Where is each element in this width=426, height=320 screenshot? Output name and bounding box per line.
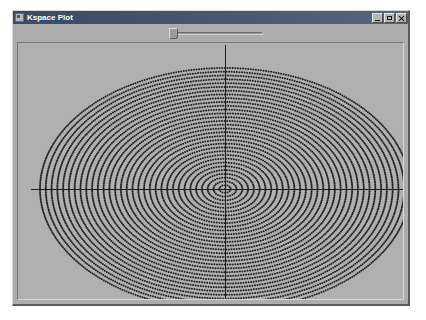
window-title: Kspace Plot <box>27 11 371 24</box>
minimize-icon <box>375 20 380 21</box>
maximize-button[interactable] <box>384 13 395 23</box>
window-title-bar[interactable]: Kspace Plot <box>13 11 408 24</box>
slider-handle[interactable] <box>169 28 178 39</box>
minimize-button[interactable] <box>372 13 383 23</box>
parameter-slider[interactable] <box>167 27 263 39</box>
close-button[interactable] <box>396 13 407 23</box>
toolbar <box>13 24 408 42</box>
kspace-plot-window: Kspace Plot <box>12 10 410 306</box>
plot-panel[interactable] <box>17 42 404 300</box>
maximize-icon <box>387 16 392 20</box>
slider-track[interactable] <box>171 32 263 35</box>
app-icon <box>15 13 24 22</box>
kspace-plot-canvas[interactable] <box>18 43 403 299</box>
